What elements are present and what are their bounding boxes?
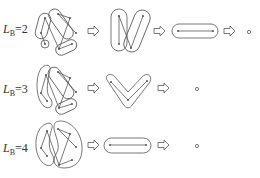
cluster-outline xyxy=(36,123,54,165)
cluster-outline xyxy=(54,97,79,116)
cluster-outline xyxy=(106,74,150,107)
graph-lb3-step1 xyxy=(106,74,150,107)
cluster-outline xyxy=(104,138,151,153)
graph-lb3-initial xyxy=(37,65,79,116)
arrow-icon xyxy=(158,83,169,93)
arrow-icon xyxy=(224,26,235,36)
graph-lb2-initial xyxy=(34,7,79,57)
arrow-icon xyxy=(88,83,99,93)
cluster-outline xyxy=(37,65,52,108)
graph-lb4-initial xyxy=(36,121,82,168)
cluster-outline xyxy=(46,7,75,42)
renormalization-diagram xyxy=(0,0,260,178)
single-node xyxy=(195,87,198,90)
arrow-icon xyxy=(88,26,99,36)
single-node xyxy=(195,144,198,147)
graph-lb4-step1 xyxy=(104,138,151,153)
arrow-icon xyxy=(154,26,165,36)
arrow-icon xyxy=(88,140,99,150)
graph-lb2-step1 xyxy=(111,8,153,55)
arrow-icon xyxy=(158,140,169,150)
single-node xyxy=(247,30,250,33)
cluster-outline xyxy=(54,38,79,57)
graph-lb2-step2 xyxy=(172,24,218,38)
